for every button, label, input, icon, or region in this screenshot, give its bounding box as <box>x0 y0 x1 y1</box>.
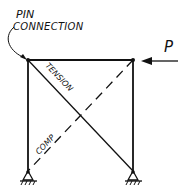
tension-label: TENSION <box>44 61 75 93</box>
load-arrowhead-icon <box>141 57 152 65</box>
pin-joint-top-right <box>131 58 135 62</box>
leader-arrowhead-icon <box>20 54 27 60</box>
right-pin-support <box>125 170 142 185</box>
braced-frame-diagram: PIN CONNECTION TENSION COMP P <box>0 0 185 191</box>
pin-connection-label-line1: PIN <box>16 8 34 21</box>
load-label: P <box>164 38 174 56</box>
pin-connection-label-line2: CONNECTION <box>13 21 84 32</box>
left-pin-support <box>20 170 37 185</box>
pin-joint-top-left <box>26 58 30 62</box>
